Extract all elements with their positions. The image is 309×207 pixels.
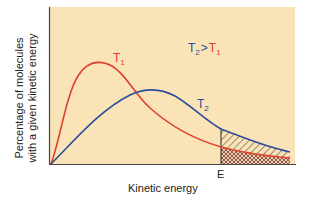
- y-axis-label-line1: Percentage of molecules: [12, 33, 25, 162]
- y-axis-label: Percentage of molecules with a given kin…: [8, 28, 42, 168]
- energy-distribution-chart: [0, 0, 309, 207]
- y-axis-label-line2: with a given kinetic energy: [25, 33, 38, 162]
- t1-label: T1: [113, 51, 125, 67]
- x-axis-label: Kinetic energy: [128, 182, 198, 194]
- plot-area: [49, 7, 295, 164]
- e-tick-label: E: [217, 168, 224, 180]
- temperature-comparison: T2>T1: [188, 41, 221, 57]
- t2-label: T2: [197, 97, 209, 113]
